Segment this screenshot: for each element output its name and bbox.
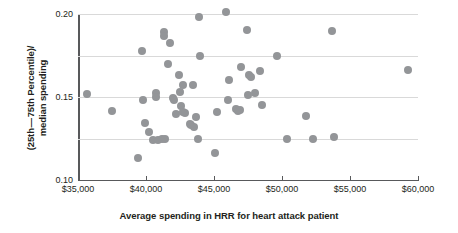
data-point — [181, 109, 189, 117]
data-point — [211, 149, 219, 157]
data-point — [328, 27, 336, 35]
gridline-y: 0.15 — [78, 56, 418, 57]
data-point — [309, 135, 317, 143]
data-point — [164, 60, 172, 68]
data-point — [134, 154, 142, 162]
gridline-y: 0.05 — [78, 139, 418, 140]
data-point — [222, 8, 230, 16]
data-point — [108, 107, 116, 115]
data-point — [152, 93, 160, 101]
y-axis-title-line2: median spending — [37, 13, 49, 183]
data-point — [190, 123, 198, 131]
x-axis-tick-label: $60,000 — [402, 184, 435, 194]
x-axis-tick-label: $55,000 — [334, 184, 367, 194]
x-axis-tick — [282, 176, 283, 181]
data-point — [145, 128, 153, 136]
data-point — [175, 71, 183, 79]
data-point — [236, 106, 244, 114]
data-point — [273, 52, 281, 60]
data-point — [83, 90, 91, 98]
data-point — [189, 81, 197, 89]
x-axis-tick-label: $35,000 — [62, 184, 95, 194]
data-point — [224, 96, 232, 104]
data-point — [195, 13, 203, 21]
data-point — [179, 81, 187, 89]
scatter-chart-figure: (25th — 75th Percentile)/ median spendin… — [0, 0, 458, 233]
data-point — [225, 76, 233, 84]
data-point — [251, 89, 259, 97]
x-axis-line — [78, 180, 419, 181]
data-point — [247, 73, 255, 81]
y-axis-tick-label: 0.20 — [55, 9, 73, 19]
data-point — [141, 119, 149, 127]
x-axis-tick — [146, 176, 147, 181]
data-point — [138, 47, 146, 55]
data-point — [243, 26, 251, 34]
x-axis-tick-label: $40,000 — [130, 184, 163, 194]
x-axis-tick — [350, 176, 351, 181]
y-axis-title-line1: (25th — 75th Percentile)/ — [25, 46, 36, 151]
data-point — [139, 96, 147, 104]
data-point — [258, 101, 266, 109]
data-point — [192, 113, 200, 121]
x-axis-tick — [78, 176, 79, 181]
data-point — [161, 135, 169, 143]
data-point — [176, 88, 184, 96]
data-point — [256, 67, 264, 75]
gridline-y: 0.20 — [78, 14, 418, 15]
data-point — [283, 135, 291, 143]
x-axis-tick — [214, 176, 215, 181]
y-axis-tick-label: 0.15 — [55, 92, 73, 102]
x-axis-tick — [418, 176, 419, 181]
data-point — [330, 133, 338, 141]
data-point — [166, 39, 174, 47]
data-point — [194, 135, 202, 143]
data-point — [213, 108, 221, 116]
data-point — [160, 32, 168, 40]
data-point — [302, 112, 310, 120]
y-axis-title: (25th — 75th Percentile)/ median spendin… — [25, 13, 49, 183]
x-axis-tick-label: $45,000 — [198, 184, 231, 194]
x-axis-tick-label: $50,000 — [266, 184, 299, 194]
data-point — [404, 66, 412, 74]
data-point — [237, 63, 245, 71]
x-axis-title: Average spending in HRR for heart attack… — [0, 210, 458, 221]
plot-area: 0.050.100.150.20 — [78, 14, 418, 180]
data-point — [196, 52, 204, 60]
